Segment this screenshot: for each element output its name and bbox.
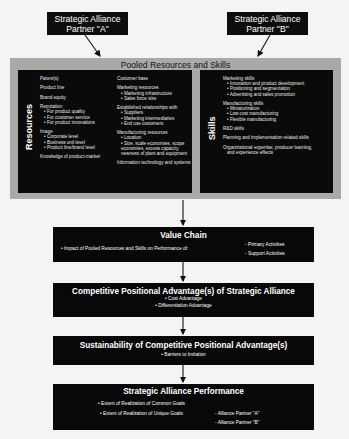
value-chain-box: Value Chain • Impact of Pooled Resources… xyxy=(53,227,314,262)
resources-col-1: Patent(s) Product line Brand equity Repu… xyxy=(40,76,118,164)
resource-item: Information technology and systems xyxy=(117,160,191,165)
value-chain-primary: - Primary Activities xyxy=(245,242,284,247)
performance-unique: • Extent of Realization of Unique Goals: xyxy=(100,411,184,416)
arrow-partner-b xyxy=(258,35,270,56)
skills-col: Marketing skills • Innovation and produc… xyxy=(223,76,331,159)
value-chain-support: - Support Activities xyxy=(245,251,285,256)
arrow-partner-a xyxy=(85,35,100,56)
competitive-title: Competitive Positional Advantage(s) of S… xyxy=(53,287,314,296)
resource-item: Marketing resources • Marketing infrastr… xyxy=(117,85,191,101)
skill-item: Marketing skills • Innovation and produc… xyxy=(223,76,331,97)
resource-item: Knowledge of product-market xyxy=(40,154,118,159)
value-chain-impact: • Impact of Pooled Resources and Skills … xyxy=(61,246,188,251)
resource-item: Patent(s) xyxy=(40,76,118,81)
sustainability-box: Sustainability of Competitive Positional… xyxy=(53,336,314,365)
resource-item: Manufacturing resources • Location • Siz… xyxy=(117,130,191,156)
pooled-resources-skills: Pooled Resources and Skills Resources Pa… xyxy=(10,58,341,199)
resource-item: Customer base xyxy=(117,76,191,81)
resource-item: Image • Corporate level • Business unit … xyxy=(40,129,118,150)
resources-col-2: Customer base Marketing resources • Mark… xyxy=(117,76,191,170)
performance-partner-a: - Alliance Partner "A" xyxy=(215,411,259,416)
competitive-advantage-box: Competitive Positional Advantage(s) of S… xyxy=(53,283,314,317)
sustainability-title: Sustainability of Competitive Positional… xyxy=(53,341,314,350)
skill-item: Manufacturing skills • Miniaturization •… xyxy=(223,101,331,122)
resource-item: Established relationships with • Supplie… xyxy=(117,105,191,126)
sustainability-item: • Barriers to Imitation xyxy=(53,352,314,359)
performance-common: • Extent of Realization of Common Goals xyxy=(98,401,185,406)
resources-panel: Resources Patent(s) Product line Brand e… xyxy=(18,70,192,193)
performance-box: Strategic Alliance Performance • Extent … xyxy=(53,384,314,430)
resource-item: Brand equity xyxy=(40,95,118,100)
resource-item: Product line xyxy=(40,85,118,90)
skills-panel: Skills Marketing skills • Innovation and… xyxy=(200,70,333,193)
skill-item: R&D skills xyxy=(223,126,331,131)
pooled-title: Pooled Resources and Skills xyxy=(10,60,341,70)
performance-title: Strategic Alliance Performance xyxy=(53,387,314,396)
resource-item: Reputation • For product quality • For c… xyxy=(40,104,118,125)
skills-label: Skills xyxy=(207,116,217,140)
skill-item: Planning and implementation related skil… xyxy=(223,135,331,140)
skill-item: Organizational expertise, producer learn… xyxy=(223,145,331,155)
resources-label: Resources xyxy=(24,104,34,150)
competitive-item: • Differentiation Advantage xyxy=(53,303,314,310)
value-chain-title: Value Chain xyxy=(53,231,314,240)
performance-partner-b: - Alliance Partner "B" xyxy=(215,420,259,425)
